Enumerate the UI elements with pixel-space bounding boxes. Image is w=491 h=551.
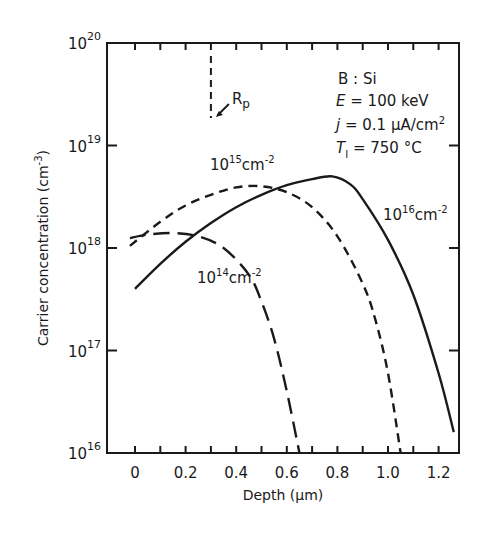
series-label-15: 1015cm-2 [210, 154, 275, 174]
x-tick-label: 1.0 [376, 464, 400, 482]
x-tick-label: 0.6 [275, 464, 299, 482]
y-axis-tick-labels: 10161017101810191020 [68, 30, 101, 463]
x-tick-label: 0.4 [224, 464, 248, 482]
energy-label: E = 100 keV [336, 92, 429, 110]
y-tick-label: 1016 [68, 440, 101, 463]
y-tick-label: 1018 [68, 235, 101, 258]
rp-marker: Rp [211, 56, 250, 118]
y-tick-label: 1019 [68, 133, 101, 156]
x-axis-title: Depth (µm) [243, 487, 324, 503]
material-label: B : Si [338, 70, 377, 88]
curve-14 [130, 233, 300, 453]
x-axis-tick-labels: 00.20.40.60.81.01.2 [130, 464, 450, 482]
rp-label: Rp [232, 90, 250, 111]
series-label-14: 1014cm-2 [197, 267, 262, 287]
carrier-concentration-chart: 00.20.40.60.81.01.2 10161017101810191020… [0, 0, 491, 551]
y-tick-label: 1020 [68, 30, 101, 53]
x-tick-label: 0 [130, 464, 140, 482]
conditions-annotation: B : Si E = 100 keV j = 0.1 µA/cm2 TI = 7… [334, 70, 445, 160]
y-axis-title: Carrier concentration (cm-3) [33, 150, 51, 346]
x-tick-label: 0.2 [174, 464, 198, 482]
y-tick-label: 1017 [68, 338, 101, 361]
series-labels: 1016cm-21015cm-21014cm-2 [197, 154, 448, 287]
implant-temperature-label: TI = 750 °C [336, 139, 422, 160]
x-tick-label: 0.8 [325, 464, 349, 482]
series-label-16: 1016cm-2 [383, 204, 448, 224]
curve-15 [130, 186, 401, 453]
x-tick-label: 1.2 [427, 464, 451, 482]
data-curves [130, 176, 454, 453]
current-density-label: j = 0.1 µA/cm2 [334, 115, 445, 134]
